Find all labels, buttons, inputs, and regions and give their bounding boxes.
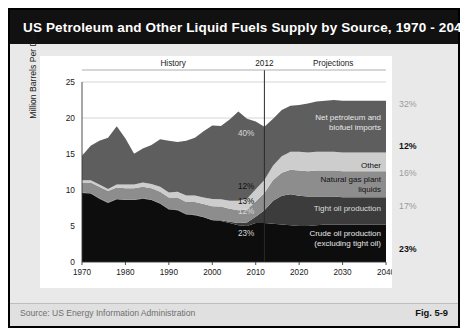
svg-text:20: 20 (66, 113, 76, 123)
svg-text:5: 5 (70, 221, 75, 231)
percent-other: 12% (399, 141, 417, 151)
svg-text:40%: 40% (238, 129, 254, 138)
chart-plot-panel: Million Barrels Per Day 0510152025197019… (40, 56, 392, 288)
y-axis-title: Million Barrels Per Day (28, 20, 38, 130)
svg-text:23%: 23% (238, 229, 254, 238)
stacked-area-chart: 0510152025197019801990200020102020203020… (40, 56, 392, 288)
svg-text:2030: 2030 (333, 268, 352, 277)
svg-text:1970: 1970 (73, 268, 92, 277)
svg-text:13%: 13% (238, 197, 254, 206)
percent-imports: 32% (399, 99, 417, 109)
source-note: Source: US Energy Information Administra… (20, 308, 195, 318)
svg-text:12%: 12% (238, 207, 254, 216)
figure-number: Fig. 5-9 (415, 307, 448, 318)
series-percent-column: 32% 12% 16% 17% 23% (395, 56, 451, 288)
percent-ngl: 16% (399, 168, 417, 178)
svg-text:Natural gas plant: Natural gas plant (321, 175, 382, 184)
svg-text:2040: 2040 (377, 268, 392, 277)
svg-text:Other: Other (361, 161, 381, 170)
svg-text:Projections: Projections (313, 59, 354, 68)
figure-title-bar: US Petroleum and Other Liquid Fuels Supp… (10, 10, 458, 44)
figure-body: Million Barrels Per Day 0510152025197019… (10, 44, 458, 304)
svg-text:Net petroleum and: Net petroleum and (315, 113, 381, 122)
svg-text:12%: 12% (238, 182, 254, 191)
svg-text:25: 25 (66, 77, 76, 87)
svg-text:Crude oil production: Crude oil production (309, 229, 381, 238)
svg-text:(excluding tight oil): (excluding tight oil) (314, 239, 381, 248)
svg-text:liquids: liquids (358, 185, 381, 194)
percent-tight-oil: 17% (399, 201, 417, 211)
svg-text:10: 10 (66, 185, 76, 195)
svg-text:biofuel imports: biofuel imports (329, 123, 381, 132)
svg-text:1990: 1990 (160, 268, 179, 277)
percent-crude-oil: 23% (399, 244, 417, 254)
svg-text:1980: 1980 (116, 268, 135, 277)
figure-container: US Petroleum and Other Liquid Fuels Supp… (8, 8, 460, 328)
svg-text:2000: 2000 (203, 268, 222, 277)
page-title: US Petroleum and Other Liquid Fuels Supp… (23, 20, 468, 35)
svg-text:Tight oil production: Tight oil production (314, 204, 381, 213)
svg-text:2012: 2012 (255, 59, 274, 68)
svg-text:History: History (160, 59, 186, 68)
svg-text:2010: 2010 (247, 268, 266, 277)
svg-text:15: 15 (66, 149, 76, 159)
svg-text:2020: 2020 (290, 268, 309, 277)
svg-text:0: 0 (70, 257, 75, 267)
figure-footer: Source: US Energy Information Administra… (10, 303, 458, 326)
